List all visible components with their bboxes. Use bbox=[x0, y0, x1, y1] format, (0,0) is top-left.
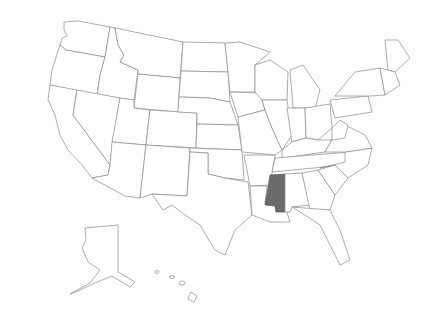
hawaii-island-1 bbox=[155, 271, 159, 274]
alaska[interactable] bbox=[70, 225, 135, 294]
state-wyoming[interactable] bbox=[134, 74, 180, 112]
hawaii-island-2 bbox=[170, 276, 175, 279]
state-colorado[interactable] bbox=[146, 110, 197, 148]
hawaii-island-big bbox=[188, 292, 197, 302]
state-north-dakota[interactable] bbox=[181, 42, 228, 72]
state-wisconsin[interactable] bbox=[255, 60, 288, 100]
state-new-york[interactable] bbox=[335, 68, 385, 96]
state-pennsylvania[interactable] bbox=[330, 96, 372, 118]
state-new-mexico[interactable] bbox=[140, 145, 190, 198]
state-kansas[interactable] bbox=[196, 124, 242, 150]
us-map bbox=[0, 0, 433, 327]
state-florida[interactable] bbox=[292, 207, 350, 265]
state-maine[interactable] bbox=[385, 40, 410, 72]
state-alaska[interactable] bbox=[70, 225, 135, 294]
state-ohio[interactable] bbox=[305, 104, 332, 140]
state-michigan[interactable] bbox=[290, 65, 320, 108]
hawaii-island-3 bbox=[179, 281, 185, 285]
hawaii[interactable] bbox=[155, 271, 197, 303]
